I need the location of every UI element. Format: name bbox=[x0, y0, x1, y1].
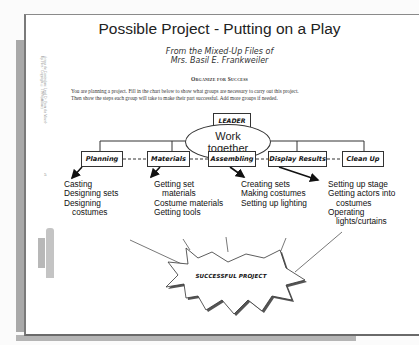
planning-steps-list: Casting Designing sets Designing costume… bbox=[64, 180, 118, 217]
materials-steps-list: Getting set materials Costume materials … bbox=[154, 180, 223, 217]
oval-line-1: Work bbox=[215, 130, 240, 142]
group-box-assembling: Assembling bbox=[208, 151, 256, 167]
org-chart-connectors bbox=[0, 0, 419, 345]
group-box-display-results: Display Results bbox=[268, 151, 327, 167]
document-page-photo: Possible Project - Putting on a Play Fro… bbox=[0, 0, 419, 345]
group-box-clean-up: Clean Up bbox=[342, 151, 384, 167]
display-results-steps-list: Setting up stage Getting actors into cos… bbox=[328, 180, 395, 226]
list-item: Setting up lighting bbox=[241, 199, 307, 208]
group-box-planning: Planning bbox=[81, 151, 123, 167]
assembling-steps-list: Creating sets Making costumes Setting up… bbox=[241, 180, 307, 208]
list-item: lights/curtains bbox=[328, 217, 395, 226]
successful-project-label: SUCCESSFUL PROJECT bbox=[186, 273, 276, 279]
list-item: costumes bbox=[64, 208, 118, 217]
list-item: Getting tools bbox=[154, 208, 223, 217]
group-box-materials: Materials bbox=[147, 151, 190, 167]
